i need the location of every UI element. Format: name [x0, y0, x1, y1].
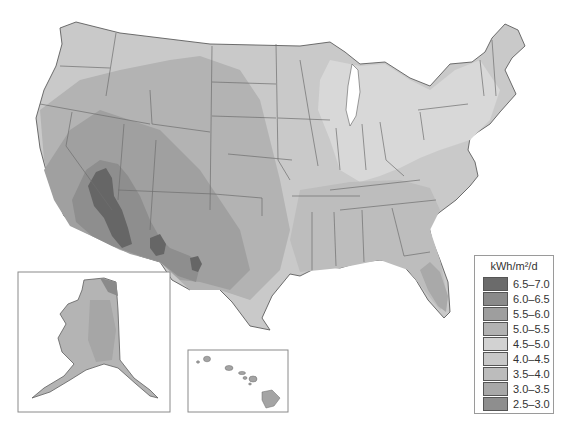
- legend-label: 5.5–6.0: [513, 308, 550, 320]
- legend-item: 4.0–4.5: [483, 351, 550, 366]
- legend-swatch: [483, 322, 508, 336]
- legend-label: 6.5–7.0: [513, 278, 550, 290]
- legend-label: 6.0–6.5: [513, 293, 550, 305]
- legend-label: 3.0–3.5: [513, 383, 550, 395]
- legend-item: 2.5–3.0: [483, 396, 550, 411]
- legend-label: 4.0–4.5: [513, 353, 550, 365]
- legend: kWh/m²/d 6.5–7.0 6.0–6.5 5.5–6.0 5.0–5.5…: [474, 255, 554, 414]
- legend-swatch: [483, 277, 508, 291]
- legend-swatch: [483, 382, 508, 396]
- legend-swatch: [483, 337, 508, 351]
- legend-item: 3.5–4.0: [483, 366, 550, 381]
- legend-swatch: [483, 352, 508, 366]
- legend-swatch: [483, 307, 508, 321]
- legend-swatch: [483, 397, 508, 411]
- legend-item: 6.0–6.5: [483, 291, 550, 306]
- legend-item: 5.5–6.0: [483, 306, 550, 321]
- legend-label: 2.5–3.0: [513, 398, 550, 410]
- legend-label: 5.0–5.5: [513, 323, 550, 335]
- legend-item: 5.0–5.5: [483, 321, 550, 336]
- legend-label: 4.5–5.0: [513, 338, 550, 350]
- legend-item: 6.5–7.0: [483, 276, 550, 291]
- legend-swatch: [483, 367, 508, 381]
- legend-title: kWh/m²/d: [475, 260, 553, 272]
- legend-swatch: [483, 292, 508, 306]
- legend-item: 3.0–3.5: [483, 381, 550, 396]
- legend-label: 3.5–4.0: [513, 368, 550, 380]
- legend-item: 4.5–5.0: [483, 336, 550, 351]
